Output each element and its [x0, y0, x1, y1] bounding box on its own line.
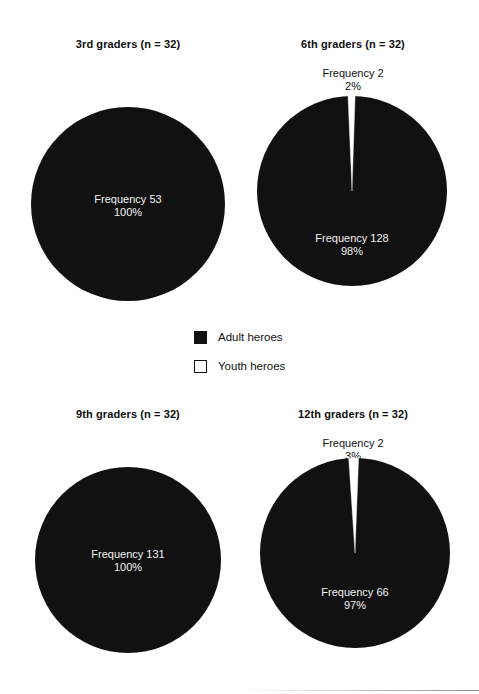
- legend-label-youth-heroes: Youth heroes: [218, 360, 285, 372]
- pie-svg-grade-12: [259, 457, 451, 649]
- legend: Adult heroes Youth heroes: [194, 327, 344, 376]
- pie-slice-adult-heroes: [35, 467, 221, 653]
- pie-grade-3: [29, 105, 227, 303]
- pie-grade-9: [33, 465, 223, 655]
- pie-chart-figure: 3rd graders (n = 32) Frequency 53 100% 6…: [0, 0, 479, 694]
- chart-panel-grade-3: 3rd graders (n = 32) Frequency 53 100%: [8, 38, 248, 308]
- panel-title-grade-12: 12th graders (n = 32): [233, 408, 473, 420]
- legend-swatch-hollow-square-icon: [194, 360, 207, 373]
- pie-callout-grade-6: Frequency 2 2%: [233, 67, 473, 93]
- pie-grade-6: [256, 95, 448, 287]
- legend-item-youth-heroes: Youth heroes: [194, 356, 344, 376]
- chart-panel-grade-9: 9th graders (n = 32) Frequency 131 100%: [8, 408, 248, 678]
- legend-swatch-filled-square-icon: [194, 331, 207, 344]
- pie-svg-grade-9: [33, 465, 223, 655]
- legend-label-adult-heroes: Adult heroes: [218, 331, 283, 343]
- panel-title-grade-9: 9th graders (n = 32): [8, 408, 248, 420]
- pie-callout-frequency-grade-6: Frequency 2: [322, 67, 383, 79]
- legend-item-adult-heroes: Adult heroes: [194, 327, 344, 347]
- panel-title-grade-6: 6th graders (n = 32): [233, 38, 473, 50]
- chart-panel-grade-12: 12th graders (n = 32) Frequency 2 3% Fre…: [233, 408, 473, 678]
- panel-title-grade-3: 3rd graders (n = 32): [8, 38, 248, 50]
- pie-svg-grade-3: [29, 105, 227, 303]
- pie-grade-12: [259, 457, 451, 649]
- pie-svg-grade-6: [256, 95, 448, 287]
- scan-artifact-line: [240, 690, 479, 691]
- chart-panel-grade-6: 6th graders (n = 32) Frequency 2 2% Freq…: [233, 38, 473, 308]
- pie-callout-frequency-grade-12: Frequency 2: [322, 437, 383, 449]
- pie-slice-adult-heroes: [31, 107, 225, 301]
- pie-callout-percent-grade-6: 2%: [233, 80, 473, 93]
